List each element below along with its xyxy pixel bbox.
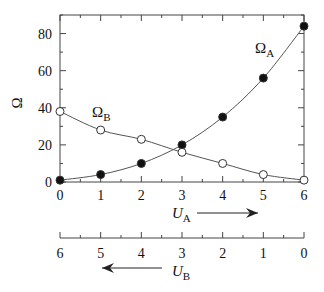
- x-tick-label-ua: 4: [219, 188, 226, 203]
- open-point-marker: [259, 171, 267, 179]
- open-point-marker: [300, 176, 308, 184]
- filled-point-marker: [56, 176, 64, 184]
- filled-point-marker: [259, 74, 267, 82]
- y-axis-label: Ω: [9, 97, 25, 108]
- omega-b-label: ΩB: [92, 104, 111, 123]
- open-point-marker: [178, 148, 186, 156]
- open-point-marker: [97, 126, 105, 134]
- filled-point-marker: [137, 159, 145, 167]
- x-tick-label-ua: 0: [57, 188, 64, 203]
- x-tick-label-ua: 6: [301, 188, 308, 203]
- x-axis-ticks-bottom: 6543210: [57, 232, 308, 261]
- open-point-marker: [56, 107, 64, 115]
- open-point-marker: [137, 135, 145, 143]
- y-tick-label: 40: [38, 101, 52, 116]
- omega-a-label: ΩA: [255, 40, 274, 59]
- x-tick-label-ua: 5: [260, 188, 267, 203]
- y-tick-label: 60: [38, 64, 52, 79]
- u-b-arrow-icon: [102, 263, 162, 273]
- x-tick-label-ub: 5: [97, 246, 104, 261]
- x-tick-label-ub: 2: [219, 246, 226, 261]
- chart-svg: 020406080 0123456 6543210 Ω ΩA ΩB UA UB: [0, 0, 324, 292]
- x-tick-label-ub: 4: [138, 246, 145, 261]
- x-tick-label-ub: 0: [301, 246, 308, 261]
- y-tick-label: 20: [38, 138, 52, 153]
- u-a-arrow-icon: [197, 208, 258, 218]
- u-a-axis-label: UA: [172, 205, 191, 224]
- chart: 020406080 0123456 6543210 Ω ΩA ΩB UA UB: [0, 0, 324, 292]
- x-tick-label-ub: 1: [260, 246, 267, 261]
- plot-frame: [60, 15, 304, 182]
- x-tick-label-ub: 6: [57, 246, 64, 261]
- x-tick-label-ua: 3: [179, 188, 186, 203]
- filled-point-marker: [178, 141, 186, 149]
- plot-border: [60, 15, 304, 182]
- y-tick-label: 0: [45, 175, 52, 190]
- open-point-marker: [219, 159, 227, 167]
- x-tick-label-ua: 1: [97, 188, 104, 203]
- filled-point-marker: [219, 113, 227, 121]
- y-tick-label: 80: [38, 27, 52, 42]
- x-tick-label-ub: 3: [179, 246, 186, 261]
- u-b-axis-label: UB: [172, 263, 190, 282]
- x-tick-label-ua: 2: [138, 188, 145, 203]
- filled-point-marker: [300, 22, 308, 30]
- filled-point-marker: [97, 171, 105, 179]
